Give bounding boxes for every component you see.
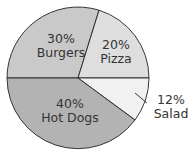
hotdogs-name: Hot Dogs bbox=[40, 111, 100, 125]
label-pizza: 20% Pizza bbox=[96, 38, 136, 66]
burgers-name: Burgers bbox=[36, 46, 86, 60]
pizza-percent: 20% bbox=[96, 38, 136, 52]
burgers-percent: 30% bbox=[36, 32, 86, 46]
pie-chart bbox=[0, 0, 193, 154]
hotdogs-percent: 40% bbox=[40, 97, 100, 111]
label-hotdogs: 40% Hot Dogs bbox=[40, 97, 100, 125]
salad-percent: 12% bbox=[151, 93, 191, 107]
label-burgers: 30% Burgers bbox=[36, 32, 86, 60]
salad-name: Salad bbox=[151, 107, 191, 121]
label-salad: 12% Salad bbox=[151, 93, 191, 121]
pizza-name: Pizza bbox=[96, 52, 136, 66]
